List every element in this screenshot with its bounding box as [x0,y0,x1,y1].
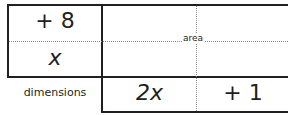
middle-horizontal-border [7,76,288,78]
dimensions-label: dimensions [9,86,101,99]
dotted-horizontal-divider [9,41,288,42]
left-bottom-factor-label: 2x [103,80,196,105]
bottom-factor-label: x [9,45,101,70]
top-factor-label: + 8 [9,8,101,33]
right-bottom-factor-label: + 1 [198,80,288,105]
dotted-vertical-divider [196,6,197,111]
area-top-border [101,4,288,6]
area-label: area [182,33,204,43]
left-box-top-border [7,4,103,6]
bottom-border [101,111,288,113]
